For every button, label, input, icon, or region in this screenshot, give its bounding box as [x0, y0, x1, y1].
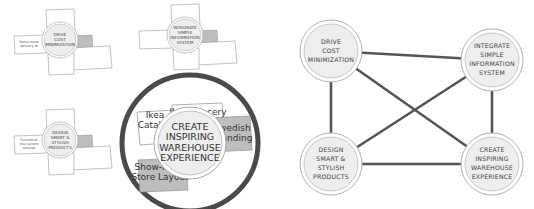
- node-label-line: SMART &: [316, 155, 345, 162]
- node-label-line: SIMPLE: [480, 51, 503, 58]
- node-experience: CREATEINSPIRINGWAREHOUSEEXPERIENCE: [461, 133, 523, 195]
- cluster-design-products: Functionalthe currentoutsideDESIGNSMART …: [14, 109, 112, 175]
- concept-label-line: CREATE: [172, 121, 209, 132]
- concept-label-line: SYSTEM: [177, 40, 194, 45]
- node-design: DESIGNSMART &STYLISHPRODUCTS: [300, 133, 362, 195]
- cluster-drive-cost: Some storedelivery atDRIVECOSTMINIMIZATI…: [14, 9, 112, 75]
- node-label-line: DRIVE: [321, 38, 341, 45]
- zoom-cluster-experience: IkeaCatalogIkea GrocerySwedishBrandingSh…: [122, 75, 258, 209]
- card-bottom-right: [195, 41, 237, 65]
- cluster-integrate-info: INTEGRATESIMPLEINFORMATIONSYSTEM: [139, 4, 237, 70]
- node-label-line: INFORMATION: [469, 60, 515, 67]
- node-label-line: CREATE: [479, 146, 504, 153]
- concept-label-line: PRODUCTS: [48, 145, 72, 150]
- node-label-line: EXPERIENCE: [472, 173, 513, 180]
- card-note-line: outside: [23, 146, 36, 150]
- node-label-line: STYLISH: [318, 164, 345, 171]
- concept-label-line: MINIMIZATION: [45, 42, 75, 47]
- card-bottom-right: [70, 46, 112, 70]
- node-cost: DRIVECOSTMINIMIZATION: [300, 20, 362, 82]
- node-label-line: INTEGRATE: [474, 42, 510, 49]
- node-label-line: PRODUCTS: [313, 173, 349, 180]
- node-label-line: WAREHOUSE: [471, 164, 513, 171]
- card-bottom-right: [70, 146, 112, 170]
- concept-label-line: WAREHOUSE: [159, 142, 221, 153]
- diagram-canvas: Some storedelivery atDRIVECOSTMINIMIZATI…: [0, 0, 534, 209]
- node-info: INTEGRATESIMPLEINFORMATIONSYSTEM: [461, 29, 523, 91]
- concept-label-line: EXPERIENCE: [160, 152, 219, 163]
- card-note-line: delivery at: [20, 44, 39, 48]
- node-label-line: INSPIRING: [475, 155, 508, 162]
- node-label-line: DESIGN: [318, 146, 343, 153]
- concept-label-line: INSPIRING: [166, 131, 214, 142]
- card-label-line: Ikea: [146, 110, 165, 120]
- node-label-line: COST: [322, 47, 340, 54]
- node-label-line: MINIMIZATION: [308, 56, 354, 63]
- node-label-line: SYSTEM: [479, 69, 505, 76]
